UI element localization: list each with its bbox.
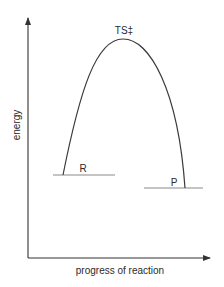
- energy-profile-diagram: TS‡ R P energy progress of reaction: [0, 0, 224, 287]
- transition-state-label: TS‡: [115, 25, 133, 36]
- product-label: P: [171, 177, 178, 188]
- y-axis-label: energy: [11, 110, 22, 141]
- reactant-label: R: [79, 163, 86, 174]
- x-axis-label: progress of reaction: [76, 265, 164, 276]
